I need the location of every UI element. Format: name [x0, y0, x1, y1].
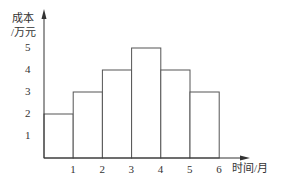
bar — [132, 48, 161, 158]
x-tick-label: 5 — [187, 164, 193, 175]
bar — [44, 114, 73, 158]
y-tick-label: 1 — [25, 130, 31, 141]
y-axis-arrow-icon — [42, 9, 47, 19]
y-tick-label: 4 — [25, 64, 31, 75]
bar — [73, 92, 102, 158]
x-tick-label: 1 — [70, 164, 76, 175]
x-tick-label: 2 — [99, 164, 105, 175]
x-axis-arrow-icon — [240, 156, 250, 161]
histogram-chart — [0, 0, 283, 185]
bar — [102, 70, 131, 158]
y-axis-label-line1: 成本 — [12, 13, 34, 24]
bar — [190, 92, 219, 158]
y-tick-label: 3 — [25, 86, 31, 97]
x-tick-label: 4 — [158, 164, 164, 175]
x-tick-label: 3 — [129, 164, 135, 175]
y-tick-label: 2 — [25, 108, 31, 119]
x-tick-label: 6 — [216, 164, 222, 175]
x-axis-label: 时间/月 — [232, 163, 268, 174]
y-tick-label: 5 — [25, 42, 31, 53]
y-axis-label-line2: /万元 — [11, 27, 36, 38]
bars — [44, 48, 219, 158]
bar — [161, 70, 190, 158]
